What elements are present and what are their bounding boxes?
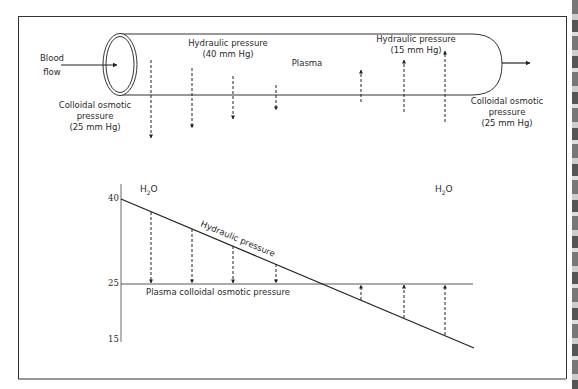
- y-tick-40: 40: [108, 193, 119, 203]
- filtration-arrows: [151, 60, 276, 138]
- left-colloidal-osmotic-label: Colloidal osmotic pressure (25 mm Hg): [45, 100, 145, 133]
- hydraulic-pressure-line: [121, 199, 474, 348]
- reabsorption-arrows: [361, 51, 445, 122]
- hydraulic-line-label: Hydraulic pressure: [199, 219, 276, 259]
- right-colloidal-osmotic-label: Colloidal osmotic pressure (25 mm Hg): [452, 96, 562, 129]
- pressure-graph: Hydraulic pressure: [121, 184, 474, 348]
- plasma-label: Plasma: [282, 58, 332, 69]
- h2o-right-label: H2O: [435, 184, 453, 198]
- right-hydraulic-pressure-label: Hydraulic pressure (15 mm Hg): [356, 34, 476, 56]
- blood-flow-label: Blood flow: [32, 53, 72, 78]
- left-hydraulic-pressure-label: Hydraulic pressure (40 mm Hg): [168, 38, 288, 60]
- osmotic-line-label: Plasma colloidal osmotic pressure: [146, 287, 290, 298]
- h2o-left-label: H2O: [140, 184, 158, 198]
- scanned-page-edge: [572, 0, 578, 389]
- y-tick-15: 15: [108, 334, 119, 344]
- y-tick-25: 25: [108, 278, 119, 288]
